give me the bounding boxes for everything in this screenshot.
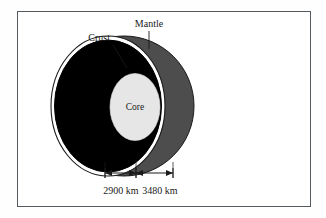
core-label: Core [126,102,144,112]
figure-frame: Core Mantle Crust [17,11,311,207]
earth-cutaway-diagram: Core Mantle Crust [18,12,310,206]
dimension-arrow-right [166,170,173,176]
dimension-label-inner: 2900 km [103,185,139,196]
dimension-label-outer: 3480 km [142,185,178,196]
crust-label: Crust [88,32,110,43]
mantle-label: Mantle [135,18,164,29]
figure-root: Core Mantle Crust [0,0,326,218]
